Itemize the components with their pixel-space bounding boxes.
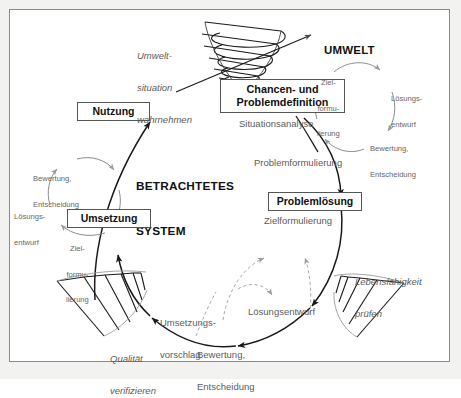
- umsetzungsvorschlag-line1: Umsetzungs-: [160, 318, 216, 329]
- phase-box-nutzung-label: Nutzung: [93, 105, 135, 118]
- umweltsituation-line1: Umwelt-: [137, 51, 192, 62]
- qualitaet-line1: Qualität: [110, 354, 156, 365]
- phase-box-problemloesung[interactable]: Problemlösung: [268, 192, 362, 211]
- umsetzung-loesung-line2: entwurf: [14, 239, 45, 248]
- phase-box-umsetzung-label: Umsetzung: [81, 212, 138, 225]
- phase-box-chancen-line2: Problemdefinition: [237, 96, 329, 109]
- environment-label: UMWELT: [324, 44, 375, 57]
- phase-box-problemloesung-label: Problemlösung: [277, 195, 353, 208]
- flow-label-qualitaet-verifizieren: Qualität verifizieren: [110, 333, 156, 398]
- flow-label-lebensfaehigkeit-pruefen: Lebensfähigkeit prüfen: [355, 256, 422, 341]
- umweltsituation-line3: wahrnehmen: [137, 115, 192, 126]
- subcycle-problemloesung-loesungsentwurf: Lösungsentwurf: [248, 307, 315, 318]
- qualitaet-line2: verifizieren: [110, 386, 156, 397]
- phase-box-chancen-line1: Chancen- und: [247, 83, 319, 96]
- umsetzung-ziel-line1: Ziel-: [66, 245, 89, 254]
- bewertung-unten-line2: Entscheidung: [197, 382, 255, 393]
- flow-label-umsetzungsvorschlag: Umsetzungs- vorschlag: [160, 297, 216, 382]
- umwelt-ziel-line2: formu-: [317, 105, 340, 114]
- subcycle-umsetzung-bewertung-entscheidung: Bewertung, Entscheidung: [33, 158, 79, 226]
- subcycle-umwelt-bewertung-entscheidung: Bewertung, Entscheidung: [370, 128, 416, 196]
- umsetzung-ziel-line2: formu-: [66, 271, 89, 280]
- lebensfaehigkeit-line1: Lebensfähigkeit: [355, 277, 422, 288]
- flow-label-problemformulierung: Problemformulierung: [254, 158, 342, 169]
- umwelt-ziel-line1: Ziel-: [317, 79, 340, 88]
- umwelt-loesung-line1: Lösungs-: [391, 95, 422, 104]
- umsetzung-bewertung-line2: Entscheidung: [33, 201, 79, 210]
- umsetzungsvorschlag-line2: vorschlag: [160, 350, 216, 361]
- subcycle-umsetzung-zielformulierung: Ziel- formu- lierung: [66, 228, 89, 322]
- umsetzung-ziel-line3: lierung: [66, 296, 89, 305]
- flow-label-situationsanalyse: Situationsanalyse: [239, 119, 313, 130]
- lebensfaehigkeit-line2: prüfen: [355, 309, 422, 320]
- umsetzung-bewertung-line1: Bewertung,: [33, 175, 79, 184]
- umweltsituation-line2: situation: [137, 83, 192, 94]
- flow-label-umweltsituation-wahrnehmen: Umwelt- situation wahrnehmen: [137, 30, 192, 147]
- subcycle-problemloesung-zielformulierung: Zielformulierung: [264, 216, 332, 227]
- center-label-line1: BETRACHTETES: [136, 179, 234, 194]
- umwelt-bewertung-line2: Entscheidung: [370, 171, 416, 180]
- umwelt-bewertung-line1: Bewertung,: [370, 145, 416, 154]
- subcycle-umwelt-zielformulierung: Ziel- formu- lierung: [317, 62, 340, 156]
- umwelt-ziel-line3: lierung: [317, 130, 340, 139]
- phase-box-umsetzung[interactable]: Umsetzung: [67, 209, 151, 228]
